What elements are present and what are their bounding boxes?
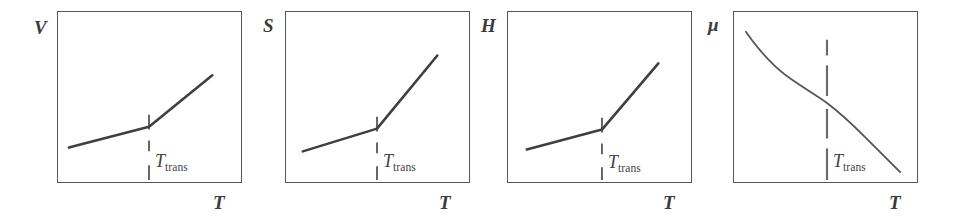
entropy-curve xyxy=(303,55,438,151)
chemical-potential-curve xyxy=(746,32,900,172)
transition-temperature-label-volume: Ttrans xyxy=(155,152,188,173)
volume-vs-temperature-plot xyxy=(58,12,241,182)
trans-label-symbol: T xyxy=(833,151,843,171)
trans-label-subscript: trans xyxy=(393,161,416,173)
x-axis-label-enthalpy: T xyxy=(663,193,675,212)
panel-volume xyxy=(57,11,242,183)
transition-temperature-label-enthalpy: Ttrans xyxy=(608,153,641,174)
chemical-potential-vs-temperature-plot xyxy=(734,12,917,182)
enthalpy-curve xyxy=(527,63,659,149)
entropy-vs-temperature-plot xyxy=(286,12,469,182)
x-axis-label-chemical-potential: T xyxy=(889,193,901,212)
y-axis-label-entropy: S xyxy=(263,16,274,35)
four-panel-thermodynamic-figure: V Ttrans T S Ttrans T H T xyxy=(0,0,953,219)
transition-temperature-label-entropy: Ttrans xyxy=(383,152,416,173)
panel-enthalpy xyxy=(507,11,692,183)
volume-curve xyxy=(69,75,212,147)
trans-label-symbol: T xyxy=(608,152,618,172)
trans-label-subscript: trans xyxy=(165,161,188,173)
y-axis-label-enthalpy: H xyxy=(481,16,496,35)
y-axis-label-chemical-potential: μ xyxy=(708,15,719,34)
trans-label-symbol: T xyxy=(383,151,393,171)
x-axis-label-volume: T xyxy=(213,193,225,212)
trans-label-subscript: trans xyxy=(618,162,641,174)
enthalpy-vs-temperature-plot xyxy=(508,12,691,182)
panel-chemical-potential xyxy=(733,11,918,183)
transition-temperature-label-chemical-potential: Ttrans xyxy=(833,152,866,173)
panel-entropy xyxy=(285,11,470,183)
y-axis-label-volume: V xyxy=(34,18,47,37)
x-axis-label-entropy: T xyxy=(439,193,451,212)
trans-label-subscript: trans xyxy=(843,161,866,173)
trans-label-symbol: T xyxy=(155,151,165,171)
